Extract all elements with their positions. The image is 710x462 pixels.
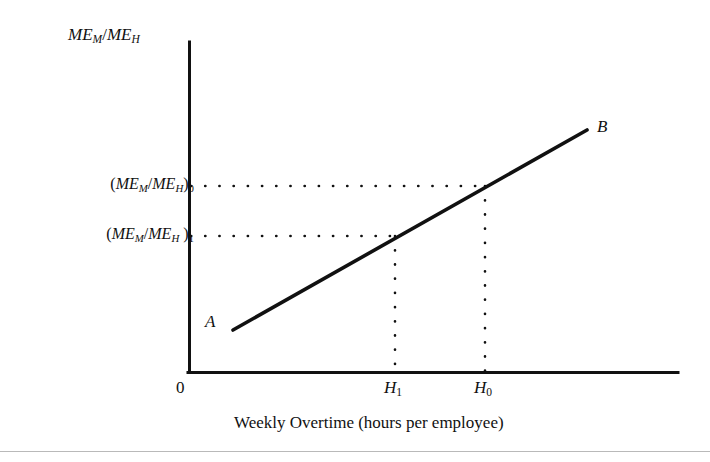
x-tick-label-h1: H1 xyxy=(384,379,402,399)
point-label-b: B xyxy=(597,118,607,135)
economics-line-chart: MEM/MEH (MEM/MEH)0 (MEM/MEH )1 0 H1 H0 A… xyxy=(0,0,710,462)
y-axis-title: MEM/MEH xyxy=(68,26,140,46)
point-label-a: A xyxy=(205,313,215,330)
line-segment-ab xyxy=(233,130,587,330)
bottom-divider xyxy=(0,451,710,452)
y-tick-label-1: (MEM/MEH )1 xyxy=(106,226,194,244)
x-axis-title: Weekly Overtime (hours per employee) xyxy=(234,414,504,431)
y-tick-label-0: (MEM/MEH)0 xyxy=(110,176,194,194)
x-tick-label-h0: H0 xyxy=(474,379,492,399)
x-tick-label-origin: 0 xyxy=(176,379,185,396)
